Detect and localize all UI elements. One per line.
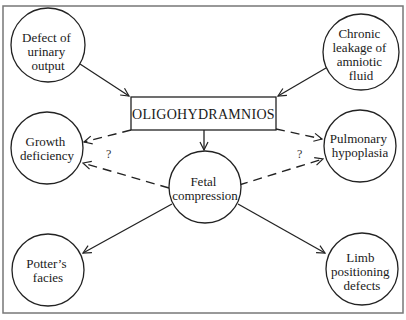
edge-fetal-to-limb — [238, 204, 325, 253]
oligohydramnios-diagram: ? ? OLIGOHYDRAMNIOS Defect of urinary ou… — [0, 0, 406, 320]
edge-chronic-to-oligohydramnios — [278, 68, 326, 96]
central-box: OLIGOHYDRAMNIOS — [131, 97, 276, 130]
node-fetal-compression: Fetal compression — [169, 151, 241, 223]
node-defect-of-urinary-output: Defect of urinary output — [11, 8, 85, 82]
edge-fetal-to-pulmonary — [239, 159, 323, 185]
edge-oligohydramnios-to-growth — [84, 130, 131, 142]
edge-defect-to-oligohydramnios — [80, 64, 129, 96]
node-growth-deficiency: Growth deficiency — [11, 112, 83, 184]
uncertain-marker-left: ? — [106, 147, 111, 161]
uncertain-marker-right: ? — [297, 147, 302, 161]
node-limb-positioning-defects: Limb positioning defects — [326, 233, 398, 305]
node-potters-facies: Potter’s facies — [12, 234, 84, 306]
edge-fetal-to-growth — [83, 163, 169, 188]
edge-fetal-to-potter — [83, 204, 172, 253]
central-box-label: OLIGOHYDRAMNIOS — [132, 107, 275, 122]
edge-oligohydramnios-to-pulmonary — [276, 129, 322, 139]
svg-text:Growth deficiency: Growth deficiency — [20, 134, 75, 163]
svg-text:Pulmonary hypoplasia: Pulmonary hypoplasia — [330, 131, 390, 160]
node-pulmonary-hypoplasia: Pulmonary hypoplasia — [324, 110, 396, 182]
node-chronic-leakage-of-amniotic-fluid: Chronic leakage of amniotic fluid — [323, 14, 399, 90]
